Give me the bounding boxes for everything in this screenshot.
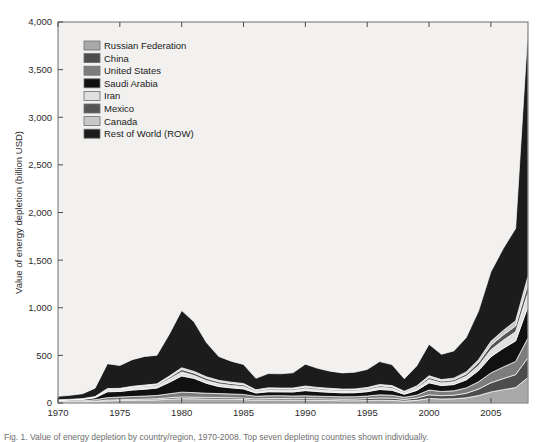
legend-label: Russian Federation — [104, 40, 186, 51]
x-tick-label: 1995 — [357, 407, 378, 418]
x-tick-label: 2000 — [418, 407, 439, 418]
legend-label: China — [104, 53, 130, 64]
legend-label: Rest of World (ROW) — [104, 128, 194, 139]
legend-swatch — [84, 79, 100, 88]
legend-label: Iran — [104, 90, 120, 101]
y-tick-label: 1,000 — [28, 302, 52, 313]
x-tick-label: 1985 — [233, 407, 254, 418]
y-tick-label: 3,000 — [28, 112, 52, 123]
legend-swatch — [84, 104, 100, 113]
legend-label: Saudi Arabia — [104, 78, 159, 89]
x-tick-label: 1980 — [171, 407, 192, 418]
legend-swatch — [84, 129, 100, 138]
y-tick-label: 3,500 — [28, 64, 52, 75]
x-tick-label: 2005 — [480, 407, 501, 418]
x-tick-label: 1990 — [295, 407, 316, 418]
legend-label: Mexico — [104, 103, 134, 114]
figure-caption: Fig. 1. Value of energy depletion by cou… — [4, 432, 540, 442]
legend-label: United States — [104, 65, 161, 76]
x-tick-label: 1975 — [109, 407, 130, 418]
legend-swatch — [84, 91, 100, 100]
legend-label: Canada — [104, 116, 138, 127]
legend-swatch — [84, 41, 100, 50]
y-tick-label: 1,500 — [28, 255, 52, 266]
y-tick-label: 4,000 — [28, 16, 52, 27]
legend-swatch — [84, 117, 100, 126]
y-tick-label: 500 — [36, 350, 52, 361]
legend-swatch — [84, 54, 100, 63]
legend-swatch — [84, 66, 100, 75]
x-tick-label: 1970 — [47, 407, 68, 418]
y-tick-label: 2,000 — [28, 207, 52, 218]
y-axis-title: Value of energy depletion (billion USD) — [13, 131, 24, 294]
y-tick-label: 2,500 — [28, 159, 52, 170]
